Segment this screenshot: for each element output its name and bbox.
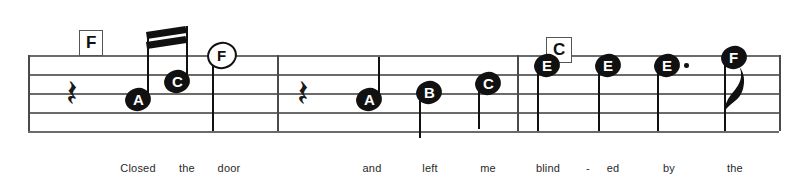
note-c: C xyxy=(475,72,501,95)
note-letter: C xyxy=(483,76,494,91)
note-head-filled: A xyxy=(353,84,384,113)
barline-start xyxy=(28,55,30,131)
chord-box-f-1: F xyxy=(79,30,103,56)
lyric-word-8: ed xyxy=(607,162,620,174)
note-e: E xyxy=(654,54,680,77)
note-f: F xyxy=(721,46,747,69)
lyric-word-10: the xyxy=(727,162,743,174)
lyric-hyphen: - xyxy=(586,162,590,174)
barline-2 xyxy=(517,55,519,131)
note-head-filled: F xyxy=(718,42,749,71)
music-sheet-excerpt: FC 𝄽ACF𝄽ABCEEEF Closedthedoorandleftmebl… xyxy=(0,0,794,185)
quarter-rest: 𝄽 xyxy=(66,74,78,112)
note-head-filled: E xyxy=(531,50,562,79)
note-head-hollow: F xyxy=(204,38,240,72)
lyric-word-0: Closed xyxy=(120,162,155,174)
lyric-word-1: the xyxy=(179,162,195,174)
augmentation-dot xyxy=(684,63,689,68)
note-letter: A xyxy=(133,92,144,107)
note-letter: E xyxy=(542,58,552,73)
note-c: C xyxy=(164,70,190,93)
note-a: A xyxy=(356,88,382,111)
lyric-word-9: by xyxy=(663,162,675,174)
lyric-word-4: left xyxy=(422,162,437,174)
note-head-filled: B xyxy=(413,77,444,106)
lyric-word-2: door xyxy=(218,162,241,174)
quarter-rest: 𝄽 xyxy=(297,74,309,112)
note-letter: A xyxy=(364,92,375,107)
note-letter: F xyxy=(217,48,226,63)
note-letter: E xyxy=(603,58,613,73)
note-head-filled: C xyxy=(161,66,192,95)
note-f: F xyxy=(209,44,235,67)
barline-end xyxy=(779,55,781,131)
note-e: E xyxy=(534,54,560,77)
note-head-filled: A xyxy=(122,84,153,113)
lyric-word-5: me xyxy=(480,162,496,174)
note-head-filled: E xyxy=(651,50,682,79)
staff-line-4 xyxy=(28,112,779,114)
note-letter: B xyxy=(424,85,435,100)
lyric-word-3: and xyxy=(363,162,382,174)
lyric-word-6: blind xyxy=(536,162,560,174)
note-letter: F xyxy=(729,50,738,65)
note-a: A xyxy=(125,88,151,111)
note-letter: E xyxy=(662,58,672,73)
note-e: E xyxy=(595,54,621,77)
barline-1 xyxy=(277,55,279,131)
eighth-note-flag xyxy=(723,61,749,117)
note-head-filled: C xyxy=(472,68,503,97)
note-b: B xyxy=(416,81,442,104)
note-head-filled: E xyxy=(592,50,623,79)
note-letter: C xyxy=(172,74,183,89)
staff-line-5 xyxy=(28,131,779,133)
